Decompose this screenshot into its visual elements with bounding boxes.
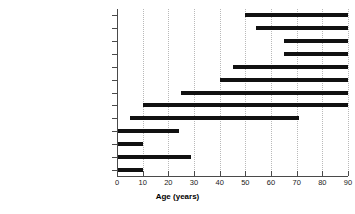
bar (233, 65, 349, 69)
x-axis-line (117, 176, 348, 177)
gridline-20 (168, 9, 169, 176)
x-tick-50 (245, 171, 246, 176)
bar (284, 52, 348, 56)
x-tick-label: 40 (215, 178, 223, 187)
x-tick-90 (348, 171, 349, 176)
x-tick-0 (117, 171, 118, 176)
x-tick-10 (143, 171, 144, 176)
bar (256, 26, 348, 30)
bar (117, 168, 143, 172)
gridline-90 (348, 9, 349, 176)
x-tick-30 (194, 171, 195, 176)
plot-area (117, 9, 348, 176)
x-tick-label: 70 (292, 178, 300, 187)
x-tick-label: 80 (318, 178, 326, 187)
x-tick-20 (168, 171, 169, 176)
bar (220, 78, 348, 82)
bar (117, 129, 179, 133)
x-tick-label: 0 (115, 178, 119, 187)
bar (284, 39, 348, 43)
x-tick-label: 50 (241, 178, 249, 187)
x-tick-70 (297, 171, 298, 176)
bar (245, 13, 348, 17)
x-tick-label: 90 (344, 178, 352, 187)
x-tick-60 (271, 171, 272, 176)
x-tick-label: 30 (190, 178, 198, 187)
bar (181, 91, 348, 95)
x-tick-80 (322, 171, 323, 176)
x-tick-label: 20 (164, 178, 172, 187)
x-axis-title: Age (years) (0, 192, 355, 201)
x-tick-label: 60 (267, 178, 275, 187)
x-tick-label: 10 (138, 178, 146, 187)
bar (130, 116, 299, 120)
bar (117, 155, 191, 159)
bar (143, 103, 348, 107)
gridline-10 (143, 9, 144, 176)
y-axis-line (117, 9, 118, 176)
bar (117, 142, 143, 146)
x-tick-40 (220, 171, 221, 176)
age-range-chart: Radiation enteritisAorto-enteric fistula… (0, 0, 355, 214)
